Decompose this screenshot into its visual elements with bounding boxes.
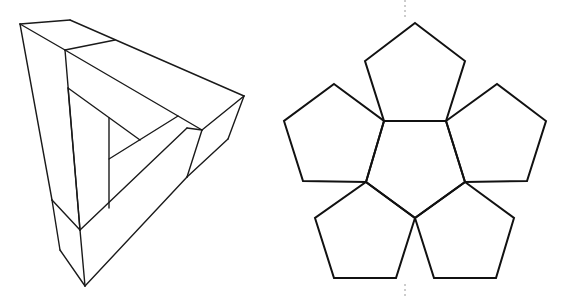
triangle-edge	[68, 88, 80, 230]
triangle-edge	[85, 177, 187, 286]
pentagon-lower-right	[415, 182, 514, 278]
pentagon-upper-left	[284, 84, 384, 182]
pentagon-lower-left	[315, 182, 415, 278]
impossible-triangle	[20, 20, 244, 286]
dodecahedron-net	[284, 0, 546, 296]
triangle-edge	[20, 24, 52, 200]
triangle-edge	[60, 250, 85, 286]
triangle-edge	[70, 20, 244, 96]
pentagon-upper-right	[446, 84, 546, 182]
triangle-edge	[109, 116, 178, 159]
triangle-edge	[65, 40, 115, 50]
pentagon-top	[365, 23, 465, 121]
triangle-edge	[20, 20, 70, 24]
triangle-edge	[65, 50, 202, 130]
triangle-edge	[80, 230, 85, 286]
triangle-edge	[68, 88, 140, 140]
diagram-canvas	[0, 0, 569, 296]
triangle-edge	[20, 24, 65, 50]
